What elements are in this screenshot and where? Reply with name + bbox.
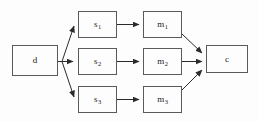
node-m2-label: m2	[157, 57, 168, 66]
node-c-label: c	[225, 55, 229, 64]
node-s2[interactable]: s2	[78, 48, 117, 75]
node-m3-label: m3	[157, 95, 168, 104]
edge-m1-to-c	[182, 34, 202, 53]
node-s3-label: s3	[94, 95, 101, 104]
node-s1-label: s1	[94, 20, 101, 29]
diagram-canvas: d s1 s2 s3 m1 m2 m3 c	[0, 0, 259, 122]
node-m2[interactable]: m2	[143, 48, 182, 75]
node-m1-label: m1	[157, 20, 168, 29]
node-s3[interactable]: s3	[78, 86, 117, 113]
node-c[interactable]: c	[206, 45, 248, 73]
node-m1[interactable]: m1	[143, 11, 182, 38]
node-m3[interactable]: m3	[143, 86, 182, 113]
edge-m3-to-c	[182, 70, 202, 90]
edge-d-to-s3	[62, 62, 74, 98]
node-d[interactable]: d	[12, 45, 58, 76]
edge-d-to-s1	[58, 26, 74, 62]
node-d-label: d	[33, 56, 38, 65]
node-s1[interactable]: s1	[78, 11, 117, 38]
node-s2-label: s2	[94, 57, 101, 66]
